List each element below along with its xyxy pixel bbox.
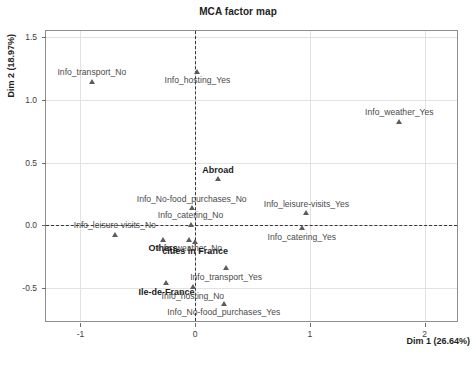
data-point-marker <box>163 280 169 285</box>
data-point-marker <box>303 210 309 215</box>
y-axis-tick-label: 0.5 <box>25 158 37 168</box>
data-point-label: Info_transport_Yes <box>190 272 262 282</box>
data-point-label: Info_weather_Yes <box>365 107 434 117</box>
data-point-label: Info_leisure-visits_No <box>74 220 156 230</box>
x-axis-title: Dim 1 (26.64%) <box>406 336 470 346</box>
x-axis-tick <box>80 323 81 327</box>
data-point-label: Info_hosting_No <box>162 291 225 301</box>
x-axis-tick <box>425 323 426 327</box>
data-point-marker <box>190 284 196 289</box>
data-point-marker <box>112 232 118 237</box>
data-point-label: Info_catering_Yes <box>268 232 337 242</box>
gridline-horizontal <box>46 37 457 38</box>
y-axis-tick-label: -0.5 <box>22 283 37 293</box>
data-point-marker <box>192 239 198 244</box>
x-axis-tick-label: 1 <box>307 329 312 339</box>
gridline-vertical <box>425 31 426 321</box>
y-axis-tick <box>42 37 46 38</box>
data-point-marker <box>188 222 194 227</box>
y-axis-tick <box>42 163 46 164</box>
data-point-marker <box>194 69 200 74</box>
mca-factor-map-figure: MCA factor map Dim 2 (18.97%) -10121.51.… <box>0 0 476 365</box>
plot-area: -10121.51.00.50.0-0.5 Info_transport_NoI… <box>45 30 458 322</box>
gridline-horizontal <box>46 163 457 164</box>
x-axis-tick <box>195 323 196 327</box>
data-point-label: Info_No-food_purchases_Yes <box>167 307 280 317</box>
gridline-horizontal <box>46 288 457 289</box>
gridline-vertical <box>310 31 311 321</box>
data-point-label: Info_transport_No <box>57 67 126 77</box>
y-axis-tick-label: 1.0 <box>25 95 37 105</box>
x-axis-tick <box>310 323 311 327</box>
data-point-label: cities in France <box>162 246 228 256</box>
data-point-label: Abroad <box>202 165 234 175</box>
data-point-marker <box>223 265 229 270</box>
data-point-marker <box>221 301 227 306</box>
data-point-label: Info_leisure-visits_Yes <box>264 199 349 209</box>
y-axis-tick <box>42 288 46 289</box>
data-point-marker <box>299 225 305 230</box>
x-axis-tick-label: 0 <box>193 329 198 339</box>
data-point-marker <box>215 176 221 181</box>
y-axis-tick-label: 1.5 <box>25 32 37 42</box>
data-point-label: Info_No-food_purchases_No <box>137 194 247 204</box>
data-point-label: Info_hosting_Yes <box>165 75 231 85</box>
x-axis-tick-label: -1 <box>77 329 85 339</box>
page-title: MCA factor map <box>0 6 476 17</box>
y-axis-tick <box>42 225 46 226</box>
data-point-label: Info_catering_No <box>158 210 223 220</box>
y-axis-tick-label: 0.0 <box>25 220 37 230</box>
y-axis-title: Dim 2 (18.97%) <box>6 34 16 98</box>
gridline-horizontal <box>46 100 457 101</box>
data-point-marker <box>160 237 166 242</box>
y-axis-tick <box>42 100 46 101</box>
data-point-marker <box>396 119 402 124</box>
data-point-marker <box>89 79 95 84</box>
